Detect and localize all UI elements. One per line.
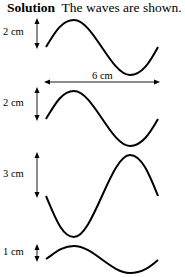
wave4-curve bbox=[46, 246, 158, 273]
wave3-curve bbox=[46, 155, 158, 237]
waves-figure bbox=[0, 0, 185, 277]
wave1-curve bbox=[46, 20, 158, 75]
wave2-curve bbox=[46, 91, 158, 146]
